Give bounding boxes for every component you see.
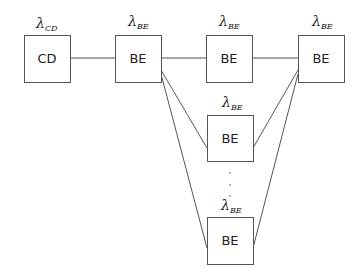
arrival-rate-label: λBE [220,197,242,215]
arrival-rate-label: λBE [311,13,333,31]
ellipsis-dot [229,172,231,174]
node-label: BE [129,51,146,66]
node-be4: BE λBE [208,94,254,162]
node-be3: BE λBE [299,13,345,83]
node-label: BE [221,233,238,248]
node-cd: CD λCD [25,15,71,83]
network-diagram: CD λCD BE λBE BE λBE BE λBE BE λBE [0,0,364,279]
arrival-rate-label: λCD [35,15,58,33]
ellipsis-dot [229,184,231,186]
node-be2: BE λBE [207,13,253,83]
node-be1: BE λBE [116,13,162,83]
arrival-rate-label: λBE [127,13,149,31]
edge-be3-be4 [253,70,298,148]
node-label: BE [312,51,329,66]
edges [70,58,298,248]
edge-be1-be4 [161,70,207,148]
ellipsis-dots [229,172,231,197]
node-label: CD [37,51,56,66]
node-label: BE [221,131,238,146]
edge-be3-be5 [253,74,298,248]
node-label: BE [220,51,237,66]
edge-be1-be5 [161,74,207,248]
node-be5: BE λBE [208,197,254,265]
arrival-rate-label: λBE [221,94,243,112]
arrival-rate-label: λBE [218,13,240,31]
